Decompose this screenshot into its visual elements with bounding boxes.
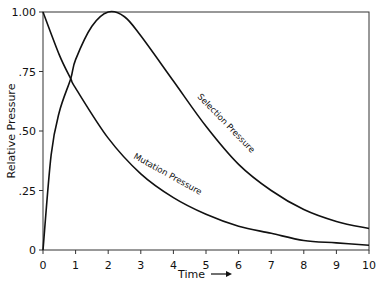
x-tick-label: 4: [170, 259, 177, 272]
y-axis-label: Relative Pressure: [5, 83, 18, 178]
selection-pressure-annotation: Selection Pressure: [196, 91, 257, 154]
mutation-pressure-line: [43, 12, 369, 245]
x-tick-label: 0: [40, 259, 47, 272]
x-axis-label: Time: [177, 268, 205, 281]
y-tick-label: .50: [19, 125, 37, 138]
x-tick-label: 7: [268, 259, 275, 272]
chart: 0123456789100.25.50.751.00TimeRelative P…: [0, 0, 382, 292]
y-tick-label: .25: [19, 185, 37, 198]
x-tick-label: 3: [137, 259, 144, 272]
x-tick-label: 10: [362, 259, 376, 272]
y-tick-label: 0: [29, 244, 36, 257]
x-tick-label: 1: [72, 259, 79, 272]
mutation-pressure-annotation: Mutation Pressure: [132, 151, 204, 197]
x-tick-label: 6: [235, 259, 242, 272]
x-tick-label: 8: [300, 259, 307, 272]
y-tick-label: 1.00: [12, 6, 37, 19]
x-tick-label: 2: [105, 259, 112, 272]
y-tick-label: .75: [19, 66, 37, 79]
x-tick-label: 9: [333, 259, 340, 272]
